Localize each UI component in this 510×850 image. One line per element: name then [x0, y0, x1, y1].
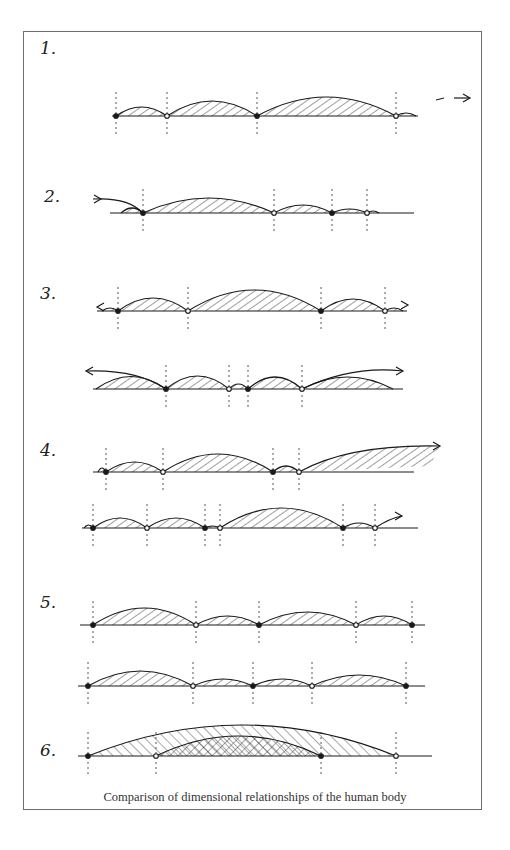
- joint-node-marker: [194, 623, 199, 628]
- proportion-row: [80, 601, 425, 645]
- joint-node-marker: [154, 754, 159, 759]
- joint-node-marker: [373, 526, 378, 531]
- diagram-number-label: 2.: [44, 186, 60, 206]
- proportion-row: [78, 662, 425, 706]
- joint-node-marker: [271, 470, 276, 475]
- proportion-row: [112, 92, 470, 136]
- joint-node-marker: [404, 684, 409, 689]
- diagram-number-label: 3.: [40, 283, 56, 303]
- joint-node-marker: [272, 211, 277, 216]
- joint-node-marker: [227, 387, 232, 392]
- joint-node-marker: [319, 754, 324, 759]
- joint-node-marker: [186, 309, 191, 314]
- joint-node-marker: [394, 114, 399, 119]
- joint-node-marker: [104, 470, 109, 475]
- diagram-number-label: 5.: [40, 592, 56, 612]
- proportion-row: [97, 287, 408, 331]
- joint-node-marker: [330, 211, 335, 216]
- joint-node-marker: [116, 309, 121, 314]
- diagram-number-label: 6.: [40, 740, 56, 760]
- joint-node-marker: [319, 309, 324, 314]
- joint-node-marker: [300, 387, 305, 392]
- joint-node-marker: [341, 526, 346, 531]
- joint-node-marker: [246, 387, 251, 392]
- joint-node-marker: [354, 623, 359, 628]
- proportion-row: [86, 365, 403, 409]
- joint-node-marker: [383, 309, 388, 314]
- joint-node-marker: [410, 623, 415, 628]
- joint-node-marker: [218, 526, 223, 531]
- joint-node-marker: [191, 684, 196, 689]
- joint-node-marker: [365, 211, 370, 216]
- joint-node-marker: [91, 526, 96, 531]
- joint-node-marker: [203, 526, 208, 531]
- proportion-row: [82, 504, 418, 548]
- joint-node-marker: [297, 470, 302, 475]
- joint-node-marker: [161, 470, 166, 475]
- joint-node-marker: [257, 623, 262, 628]
- joint-node-marker: [165, 114, 170, 119]
- proportion-row: [93, 442, 440, 492]
- joint-node-marker: [310, 684, 315, 689]
- joint-node-marker: [141, 211, 146, 216]
- proportion-row: [78, 725, 432, 776]
- figure-caption: Comparison of dimensional relationships …: [0, 790, 510, 805]
- proportion-row: [93, 189, 414, 233]
- joint-node-marker: [394, 754, 399, 759]
- joint-node-marker: [251, 684, 256, 689]
- joint-node-marker: [114, 114, 119, 119]
- joint-node-marker: [86, 754, 91, 759]
- diagram-number-label: 1.: [40, 38, 56, 58]
- joint-node-marker: [91, 623, 96, 628]
- joint-node-marker: [164, 387, 169, 392]
- joint-node-marker: [255, 114, 260, 119]
- diagram-number-label: 4.: [40, 440, 56, 460]
- joint-node-marker: [86, 684, 91, 689]
- joint-node-marker: [145, 526, 150, 531]
- proportion-sketches: [0, 0, 510, 850]
